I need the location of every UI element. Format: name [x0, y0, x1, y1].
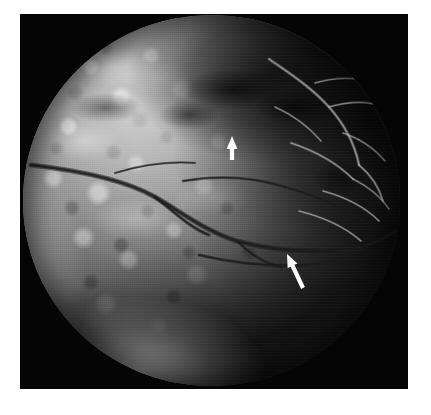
annotation-arrow-1 — [227, 136, 238, 160]
arrow-group — [227, 136, 305, 289]
annotation-arrow-overlay — [20, 14, 408, 389]
angiogram-plate — [20, 14, 408, 389]
figure-root — [0, 0, 431, 415]
annotation-arrow-2 — [287, 254, 305, 289]
